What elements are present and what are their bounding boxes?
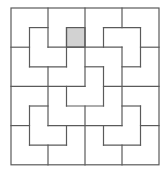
tromino-tiling-diagram [0, 0, 166, 176]
shaded-square [67, 28, 86, 48]
shaded-cell [67, 28, 86, 48]
tile-boundaries [11, 8, 159, 165]
